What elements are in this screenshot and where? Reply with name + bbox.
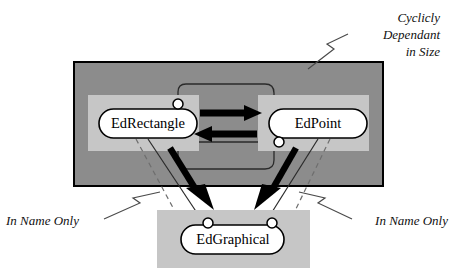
node-edrectangle[interactable]: EdRectangle	[99, 109, 197, 138]
annotation-in-name-only-right: In Name Only	[374, 213, 448, 228]
edpoint-bottom-port[interactable]	[274, 137, 284, 147]
cyclic-note-line-1: Cyclicly	[397, 10, 440, 25]
diagram-canvas: EdRectangle EdPoint EdGraphical Cyclicly…	[0, 0, 454, 271]
edrectangle-top-port[interactable]	[173, 99, 183, 109]
in-name-only-left-leader	[104, 192, 160, 219]
cyclic-note-line-2: Dependant	[382, 27, 440, 42]
annotation-in-name-only-left: In Name Only	[5, 213, 79, 228]
edgraphical-label: EdGraphical	[196, 231, 269, 247]
edgraphical-left-port[interactable]	[203, 218, 213, 228]
node-edgraphical[interactable]: EdGraphical	[181, 225, 284, 254]
edrectangle-label: EdRectangle	[111, 115, 185, 131]
annotation-cyclic-note: Cyclicly Dependant in Size	[382, 10, 440, 59]
edpoint-label: EdPoint	[295, 115, 342, 131]
class-diagram: EdRectangle EdPoint EdGraphical Cyclicly…	[0, 0, 454, 271]
edgraphical-right-port[interactable]	[267, 218, 277, 228]
node-edpoint[interactable]: EdPoint	[269, 109, 367, 138]
cyclic-note-line-3: in Size	[406, 44, 441, 59]
